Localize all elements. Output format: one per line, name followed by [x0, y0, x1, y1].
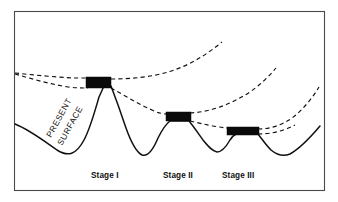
stage-label-3: Stage III	[222, 171, 254, 180]
valley-stages-diagram: PRESENT SURFACE Stage I Stage II Stage I…	[0, 0, 338, 202]
terrace-stage-3	[227, 127, 259, 135]
terrace-stage-2	[166, 112, 191, 121]
stage-label-1: Stage I	[91, 171, 119, 180]
stage-label-2: Stage II	[163, 171, 193, 180]
stage-labels-group: Stage I Stage II Stage III	[91, 171, 254, 180]
terrace-stage-1	[86, 77, 111, 88]
figure-frame	[15, 12, 325, 191]
figure-root: PRESENT SURFACE Stage I Stage II Stage I…	[0, 0, 338, 202]
